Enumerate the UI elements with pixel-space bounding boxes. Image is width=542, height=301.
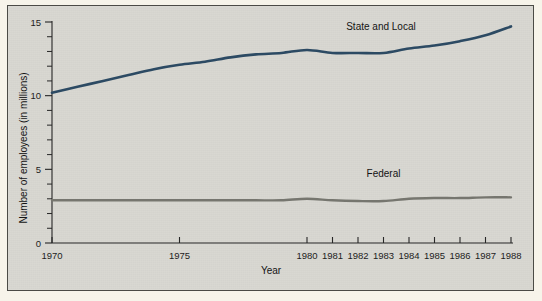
data-series-group — [52, 26, 511, 201]
series-annotations: State and LocalFederal — [346, 21, 416, 179]
x-tick-label: 1985 — [424, 250, 445, 261]
y-tick-label: 0 — [36, 238, 41, 249]
x-tick-label: 1984 — [398, 250, 419, 261]
x-tick-label: 1975 — [169, 250, 190, 261]
y-axis-title: Number of employees (in millions) — [18, 72, 29, 223]
y-tick-label: 15 — [30, 17, 41, 28]
x-axis-tick-labels: 1970197519801981198219831984198519861987… — [41, 250, 521, 261]
y-axis-tick-labels: 051015 — [30, 17, 41, 249]
y-tick-label: 10 — [30, 90, 41, 101]
x-tick-label: 1981 — [322, 250, 343, 261]
x-axis-ticks — [52, 237, 511, 243]
x-tick-label: 1970 — [41, 250, 62, 261]
x-tick-label: 1988 — [500, 250, 521, 261]
series-annotation-label: Federal — [367, 168, 401, 179]
chart-figure: 051015 197019751980198119821983198419851… — [0, 0, 542, 301]
series-line — [52, 26, 511, 92]
y-axis-major-ticks — [45, 22, 52, 243]
x-tick-label: 1986 — [449, 250, 470, 261]
x-tick-label: 1987 — [475, 250, 496, 261]
line-chart: 051015 197019751980198119821983198419851… — [0, 0, 542, 301]
series-annotation-label: State and Local — [346, 21, 416, 32]
y-tick-label: 5 — [36, 164, 41, 175]
x-tick-label: 1983 — [373, 250, 394, 261]
x-tick-label: 1980 — [296, 250, 317, 261]
series-line — [52, 197, 511, 201]
x-axis-title: Year — [261, 265, 282, 276]
x-tick-label: 1982 — [347, 250, 368, 261]
